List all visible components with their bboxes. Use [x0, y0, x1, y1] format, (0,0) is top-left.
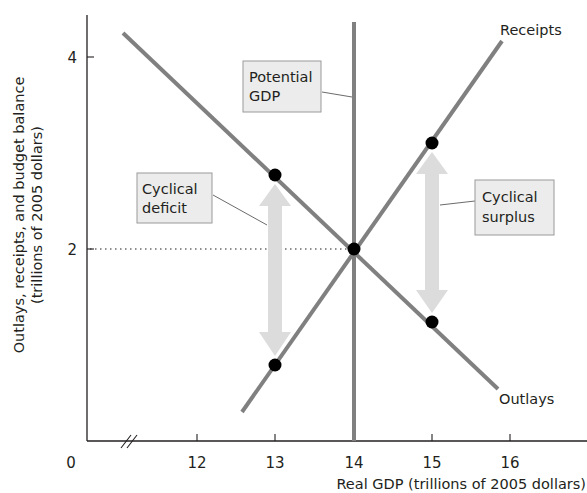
point-outlays-15 — [426, 316, 439, 329]
receipts-label: Receipts — [500, 22, 562, 38]
y-tick-label-4: 4 — [67, 49, 77, 67]
cyclical-deficit-label-1: Cyclical — [142, 181, 198, 197]
x-tick-label-15: 15 — [422, 454, 441, 472]
x-tick-label-12: 12 — [187, 454, 206, 472]
cyclical-surplus-label-1: Cyclical — [482, 189, 538, 205]
x-tick-label-13: 13 — [265, 454, 284, 472]
cyclical-deficit-leader — [213, 195, 267, 225]
outlays-label: Outlays — [499, 391, 554, 407]
y-axis-title-line2: (trillions of 2005 dollars) — [29, 126, 45, 304]
cyclical-deficit-arrow — [259, 184, 291, 356]
cyclical-deficit-label-2: deficit — [142, 200, 187, 216]
point-receipts-15 — [426, 137, 439, 150]
potential-gdp-label-1: Potential — [249, 69, 313, 85]
potential-gdp-leader — [322, 92, 352, 97]
y-axis-title-line1: Outlays, receipts, and budget balance — [11, 77, 27, 354]
point-outlays-13 — [269, 169, 282, 182]
origin-label: 0 — [66, 454, 76, 472]
x-tick-label-16: 16 — [500, 454, 519, 472]
y-tick-label-2: 2 — [67, 241, 77, 259]
potential-gdp-label-2: GDP — [249, 88, 280, 104]
point-receipts-13 — [269, 359, 282, 372]
budget-balance-chart: 0 12 13 14 15 16 4 2 Real GDP (trillions… — [0, 0, 587, 493]
cyclical-surplus-label-2: surplus — [482, 209, 535, 225]
cyclical-surplus-arrow — [416, 152, 448, 313]
x-axis-title: Real GDP (trillions of 2005 dollars) — [336, 476, 586, 492]
cyclical-surplus-leader — [440, 201, 475, 205]
point-intersection-14 — [348, 243, 361, 256]
x-tick-label-14: 14 — [344, 454, 363, 472]
